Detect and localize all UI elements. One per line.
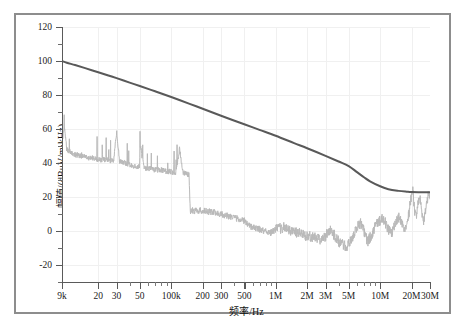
- y-tick-major: [56, 95, 63, 96]
- x-tick-minor: [357, 282, 358, 286]
- x-tick-minor: [370, 282, 371, 286]
- x-tick-minor: [364, 282, 365, 286]
- x-tick-label: 200: [196, 291, 210, 302]
- x-tick-minor: [375, 282, 376, 286]
- x-tick-major: [98, 282, 99, 289]
- y-tick-minor: [58, 112, 63, 113]
- x-tick-label: 30: [112, 291, 122, 302]
- y-tick-major: [56, 231, 63, 232]
- y-tick-label: 120: [0, 22, 52, 32]
- x-tick-label: 500: [237, 291, 251, 302]
- x-tick-major: [140, 282, 141, 289]
- x-tick-major: [380, 282, 381, 289]
- y-tick-minor: [58, 44, 63, 45]
- x-tick-minor: [260, 282, 261, 286]
- x-axis-title: 频率/Hz: [62, 303, 431, 318]
- x-tick-label: 5M: [342, 291, 355, 302]
- x-tick-minor: [161, 282, 162, 286]
- x-tick-major: [412, 282, 413, 289]
- x-tick-minor: [266, 282, 267, 286]
- x-tick-major: [171, 282, 172, 289]
- x-tick-label: 20: [93, 291, 103, 302]
- y-tick-label: 0: [0, 226, 52, 236]
- y-tick-minor: [58, 78, 63, 79]
- x-tick-minor: [148, 282, 149, 286]
- x-tick-label: 1M: [269, 291, 282, 302]
- x-tick-major: [244, 282, 245, 289]
- y-tick-label: 20: [0, 192, 52, 202]
- y-tick-minor: [58, 146, 63, 147]
- y-tick-major: [56, 163, 63, 164]
- y-tick-label: 40: [0, 158, 52, 168]
- x-tick-label: 10M: [371, 291, 389, 302]
- limit-line-curve: [62, 61, 430, 192]
- y-tick-major: [56, 27, 63, 28]
- y-tick-label: 60: [0, 124, 52, 134]
- x-tick-label: 3M: [319, 291, 332, 302]
- x-tick-minor: [271, 282, 272, 286]
- x-tick-label: 50: [135, 291, 145, 302]
- y-tick-major: [56, 129, 63, 130]
- y-axis-line: [62, 27, 63, 283]
- x-tick-minor: [130, 282, 131, 286]
- emc-emission-chart-figure: 幅值/(dBμV/m·kHz) 120100806040200-209k2030…: [0, 0, 467, 331]
- x-tick-minor: [339, 282, 340, 286]
- x-tick-major: [326, 282, 327, 289]
- y-tick-label: 100: [0, 56, 52, 66]
- x-tick-major: [203, 282, 204, 289]
- x-tick-label: 20M: [403, 291, 421, 302]
- plot-area: [62, 27, 430, 282]
- x-tick-major: [276, 282, 277, 289]
- y-tick-major: [56, 197, 63, 198]
- x-tick-minor: [155, 282, 156, 286]
- x-tick-label: 9k: [57, 291, 67, 302]
- y-tick-major: [56, 61, 63, 62]
- y-tick-minor: [58, 180, 63, 181]
- x-tick-label: 100k: [162, 291, 181, 302]
- x-tick-label: 30M: [421, 291, 439, 302]
- y-tick-minor: [58, 248, 63, 249]
- x-tick-major: [117, 282, 118, 289]
- y-tick-label: 80: [0, 90, 52, 100]
- x-tick-major: [349, 282, 350, 289]
- y-tick-minor: [58, 214, 63, 215]
- x-tick-major: [430, 282, 431, 289]
- x-tick-minor: [234, 282, 235, 286]
- y-tick-major: [56, 265, 63, 266]
- data-curves: [62, 27, 430, 282]
- x-tick-minor: [253, 282, 254, 286]
- x-tick-minor: [167, 282, 168, 286]
- x-tick-major: [62, 282, 63, 289]
- x-tick-major: [307, 282, 308, 289]
- x-tick-label: 2M: [300, 291, 313, 302]
- x-tick-major: [221, 282, 222, 289]
- y-tick-label: -20: [0, 260, 52, 270]
- x-tick-label: 300: [214, 291, 228, 302]
